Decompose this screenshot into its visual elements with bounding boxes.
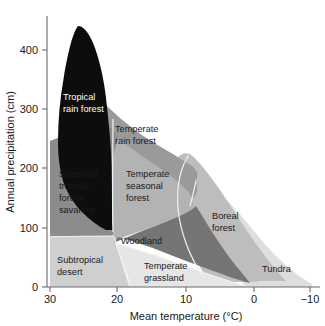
- label-tundra: Tundra: [262, 264, 292, 274]
- y-tick-labels: 400 300 200 100 0: [20, 44, 38, 293]
- whittaker-biome-diagram: 400 300 200 100 0 30 20 10 0 −10 Mean te…: [0, 0, 325, 326]
- y-tick-label-100: 100: [20, 222, 38, 234]
- label-temperate-rain-forest-line1: Temperate: [115, 124, 158, 134]
- label-subtropical-desert-line1: Subtropical: [57, 255, 103, 265]
- label-temperate-seasonal-line2: seasonal: [126, 181, 163, 191]
- biome-regions: [50, 26, 312, 287]
- label-seasonal-tropical-line1: Seasonal: [59, 169, 97, 179]
- label-tropical-rain-forest-line2: rain forest: [63, 104, 104, 114]
- y-tick-label-400: 400: [20, 44, 38, 56]
- x-tick-label-30: 30: [44, 293, 56, 305]
- label-boreal-forest-line2: forest: [212, 223, 235, 233]
- label-temperate-seasonal-line3: forest: [126, 193, 149, 203]
- label-tropical-rain-forest-line1: Tropical: [63, 92, 95, 102]
- label-temperate-seasonal-line1: Temperate: [126, 169, 169, 179]
- label-temperate-grassland-line1: Temperate: [144, 261, 187, 271]
- label-woodland: Woodland: [121, 236, 162, 246]
- label-seasonal-tropical-line4: savanna: [59, 205, 95, 215]
- x-tick-label-20: 20: [111, 293, 123, 305]
- label-temperate-grassland-line2: grassland: [144, 273, 184, 283]
- y-tick-label-300: 300: [20, 103, 38, 115]
- label-temperate-rain-forest-line2: rain forest: [115, 136, 156, 146]
- y-axis-title: Annual precipitation (cm): [4, 91, 16, 213]
- label-seasonal-tropical-line2: tropical: [59, 181, 89, 191]
- biome-chart-svg: 400 300 200 100 0 30 20 10 0 −10 Mean te…: [0, 0, 325, 326]
- y-tick-label-200: 200: [20, 162, 38, 174]
- label-boreal-forest-line1: Boreal: [212, 211, 239, 221]
- x-tick-label-neg10: −10: [301, 293, 320, 305]
- x-tick-label-0: 0: [251, 293, 257, 305]
- x-tick-labels: 30 20 10 0 −10: [44, 293, 319, 305]
- x-axis-title: Mean temperature (°C): [130, 310, 243, 322]
- x-tick-label-10: 10: [180, 293, 192, 305]
- label-seasonal-tropical-line3: forest/: [59, 193, 85, 203]
- y-tick-label-0: 0: [32, 281, 38, 293]
- label-subtropical-desert-line2: desert: [57, 267, 83, 277]
